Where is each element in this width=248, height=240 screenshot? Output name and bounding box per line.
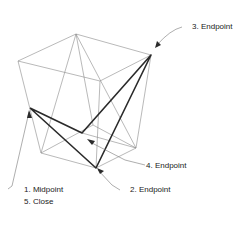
wireframe-thin-edges	[18, 34, 151, 168]
edge-left	[18, 61, 41, 153]
label-endpoint-2: 2. Endpoint	[130, 185, 170, 195]
edge-front	[96, 81, 100, 168]
edge-back	[76, 34, 93, 125]
top-face	[18, 34, 151, 81]
arrow-3	[155, 41, 161, 48]
arrow-2	[97, 168, 104, 174]
label-close-5: 5. Close	[24, 197, 53, 206]
label-endpoint-4: 4. Endpoint	[146, 161, 186, 171]
arrowheads	[27, 41, 161, 174]
label-midpoint-1: 1. Midpoint	[24, 185, 63, 195]
label-endpoint-3: 3. Endpoint	[192, 22, 232, 32]
